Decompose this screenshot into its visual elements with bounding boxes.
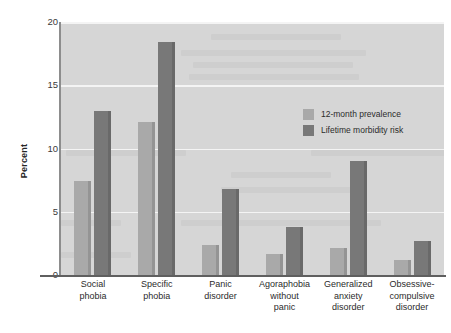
bar-shadow [364, 161, 367, 275]
bar-shadow [408, 260, 411, 275]
x-tick-label-line: phobia [125, 291, 189, 303]
x-tick-label-line: phobia [61, 291, 125, 303]
y-tick-label: 15 [34, 79, 58, 90]
bar-shadow [428, 241, 431, 275]
y-tick-label: 20 [34, 16, 58, 27]
gridline [61, 149, 444, 151]
bar [350, 161, 367, 275]
x-tick-label: Agoraphobiawithoutpanic [253, 279, 317, 314]
bar [286, 227, 303, 275]
bar [222, 189, 239, 275]
x-tick-label-line: Agoraphobia [253, 279, 317, 291]
chart-legend: 12-month prevalenceLifetime morbidity ri… [303, 107, 403, 139]
x-tick-label: Socialphobia [61, 279, 125, 302]
bleedthrough-line [181, 50, 366, 56]
gridline [61, 85, 444, 87]
legend-item: 12-month prevalence [303, 107, 403, 121]
bleedthrough-line [231, 172, 331, 178]
legend-item: Lifetime morbidity risk [303, 123, 403, 137]
x-tick-label: Specificphobia [125, 279, 189, 302]
bar [414, 241, 431, 275]
bleedthrough-line [221, 187, 351, 193]
plot-area [61, 22, 444, 275]
x-tick-label-line: Obsessive- [380, 279, 444, 291]
bar-shadow [172, 42, 175, 275]
bleedthrough-line [193, 62, 353, 68]
x-tick-label-line: Social [61, 279, 125, 291]
x-tick-label-line: disorder [316, 302, 380, 314]
x-tick-label-line: Panic [189, 279, 253, 291]
y-tick-label: 5 [34, 206, 58, 217]
x-tick-label: Panicdisorder [189, 279, 253, 302]
bleedthrough-line [211, 34, 341, 40]
bar-shadow [152, 122, 155, 275]
bar-shadow [216, 245, 219, 275]
x-tick-label-line: Generalized [316, 279, 380, 291]
x-tick-label-line: disorder [380, 302, 444, 314]
bar [158, 42, 175, 275]
bleedthrough-line [189, 74, 359, 80]
x-tick-label: Generalizedanxietydisorder [316, 279, 380, 314]
x-tick-label-line: disorder [189, 291, 253, 303]
x-tick-label-line: compulsive [380, 291, 444, 303]
bar [266, 254, 283, 276]
y-axis-tick-labels: 05101520 [34, 0, 58, 333]
x-tick-label-line: anxiety [316, 291, 380, 303]
bar-shadow [236, 189, 239, 275]
bar [138, 122, 155, 275]
bar-shadow [88, 181, 91, 275]
bar-shadow [344, 248, 347, 275]
bar-shadow [108, 111, 111, 275]
x-tick-label-line: without [253, 291, 317, 303]
bar [394, 260, 411, 275]
legend-swatch [303, 125, 314, 136]
gridline [61, 22, 444, 24]
bar [94, 111, 111, 275]
bar-shadow [280, 254, 283, 276]
x-axis-line [40, 275, 446, 277]
legend-label: 12-month prevalence [321, 109, 401, 119]
y-axis-label: Percent [19, 126, 29, 196]
bar [330, 248, 347, 275]
bleedthrough-line [311, 150, 444, 156]
x-tick-label: Obsessive-compulsivedisorder [380, 279, 444, 314]
x-tick-label-line: Specific [125, 279, 189, 291]
bar [74, 181, 91, 275]
bar [202, 245, 219, 275]
legend-swatch [303, 109, 314, 120]
bar-chart-figure: Percent 05101520 12-month prevalenceLife… [0, 0, 451, 333]
y-tick-label: 10 [34, 143, 58, 154]
legend-label: Lifetime morbidity risk [321, 125, 403, 135]
x-tick-label-line: panic [253, 302, 317, 314]
gridline [61, 212, 444, 214]
x-axis-tick-labels: SocialphobiaSpecificphobiaPanicdisorderA… [61, 279, 444, 333]
bar-shadow [300, 227, 303, 275]
